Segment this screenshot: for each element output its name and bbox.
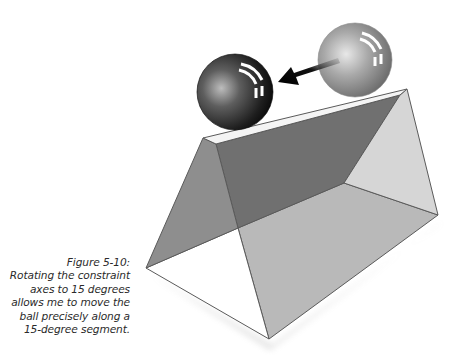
figure-page: Figure 5-10: Rotating the constraint axe…: [0, 0, 464, 363]
caption-line: ball precisely along a: [0, 310, 130, 323]
trapezoid-prism: [146, 89, 438, 339]
caption-line: 15-degree segment.: [0, 323, 130, 336]
start-ball: [318, 23, 392, 97]
figure-label: Figure 5-10:: [0, 256, 130, 269]
caption-line: allows me to move the: [0, 296, 130, 309]
end-ball: [197, 54, 273, 130]
figure-caption: Figure 5-10: Rotating the constraint axe…: [0, 256, 130, 336]
caption-line: Rotating the constraint: [0, 269, 130, 282]
caption-line: axes to 15 degrees: [0, 283, 130, 296]
